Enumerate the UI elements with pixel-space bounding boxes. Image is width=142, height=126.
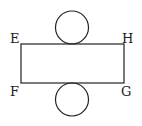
label-e: E	[10, 31, 20, 46]
cylinder-net-diagram: E H F G	[0, 0, 142, 126]
rectangle-efgh	[21, 44, 124, 83]
label-f: F	[10, 84, 19, 99]
label-h: H	[122, 31, 133, 46]
bottom-circle	[56, 83, 89, 116]
label-g: G	[121, 84, 131, 99]
top-circle	[56, 11, 89, 44]
